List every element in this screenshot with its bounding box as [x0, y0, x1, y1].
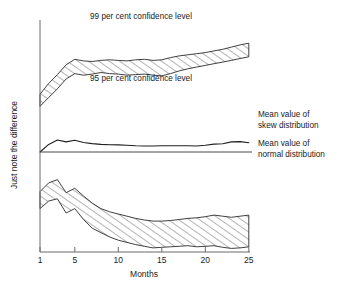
x-tick-label-5: 5 — [72, 255, 77, 265]
label-mean-skew-line1: Mean value of — [258, 110, 310, 119]
x-tick-label-10: 10 — [114, 255, 124, 265]
label-99-confidence: 99 per cent confidence level — [90, 12, 192, 21]
x-tick-label-1: 1 — [38, 255, 43, 265]
chart-svg: 1 5 10 15 20 25 Months Just note the dif… — [0, 0, 341, 285]
label-mean-normal-line1: Mean value of — [258, 139, 310, 148]
label-mean-skew-line2: skew distribution — [258, 121, 319, 130]
chart-figure: 1 5 10 15 20 25 Months Just note the dif… — [0, 0, 341, 285]
label-95-confidence: 95 per cent confidence level — [90, 74, 192, 83]
x-tick-label-25: 25 — [244, 255, 254, 265]
label-mean-normal-line2: normal distribution — [258, 150, 325, 159]
x-tick-label-20: 20 — [201, 255, 211, 265]
y-axis-title: Just note the difference — [9, 101, 19, 189]
x-tick-label-15: 15 — [157, 255, 167, 265]
x-axis-title: Months — [130, 269, 158, 279]
